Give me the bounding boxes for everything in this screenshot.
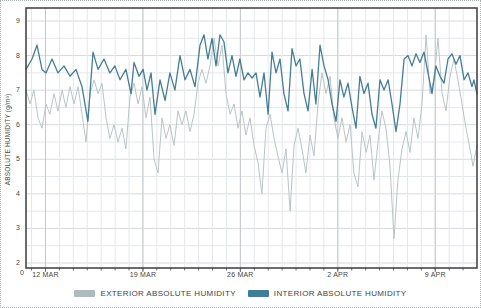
y-tick-label: 2 — [0, 259, 20, 266]
series-line — [26, 35, 477, 132]
y-axis-title: ABSOLUTE HUMIDITY (g/m³) — [4, 78, 11, 202]
series-line — [26, 35, 477, 239]
y-tick-label: 8 — [0, 52, 20, 59]
legend-label-exterior: EXTERIOR ABSOLUTE HUMIDITY — [100, 289, 235, 298]
origin-label: 0 — [6, 269, 24, 276]
y-tick-label: 5 — [0, 155, 20, 162]
x-tick-label: 9 APR — [413, 271, 457, 278]
y-tick-label: 6 — [0, 121, 20, 128]
y-tick-label: 3 — [0, 224, 20, 231]
legend: EXTERIOR ABSOLUTE HUMIDITY INTERIOR ABSO… — [0, 285, 481, 301]
y-tick-label: 4 — [0, 190, 20, 197]
legend-item-exterior[interactable]: EXTERIOR ABSOLUTE HUMIDITY — [74, 289, 235, 298]
plot-area — [0, 0, 481, 308]
x-tick-label: 2 APR — [316, 271, 360, 278]
exterior-series-swatch — [74, 290, 95, 297]
humidity-chart: ABSOLUTE HUMIDITY (g/m³) 98765432 12 MAR… — [0, 0, 481, 308]
legend-label-interior: INTERIOR ABSOLUTE HUMIDITY — [274, 289, 407, 298]
x-tick-label: 19 MAR — [121, 271, 165, 278]
y-tick-label: 7 — [0, 86, 20, 93]
legend-item-interior[interactable]: INTERIOR ABSOLUTE HUMIDITY — [248, 289, 407, 298]
interior-series-swatch — [248, 290, 269, 297]
y-tick-label: 9 — [0, 17, 20, 24]
x-tick-label: 26 MAR — [218, 271, 262, 278]
x-tick-label: 12 MAR — [23, 271, 67, 278]
